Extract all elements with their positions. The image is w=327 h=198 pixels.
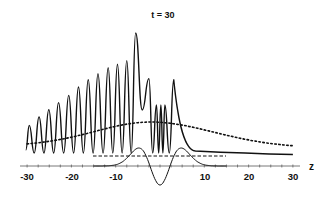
x-tick-label: 30	[288, 171, 299, 182]
chart-title: t = 30	[151, 10, 174, 20]
x-tick-label: -30	[20, 171, 34, 182]
x-tick-label: 20	[244, 171, 255, 182]
x-tick-label: -10	[109, 171, 123, 182]
x-tick-label: -20	[65, 171, 79, 182]
oscillating-wave-curve	[26, 33, 293, 155]
x-axis-label: z	[309, 161, 314, 172]
x-tick-label: 10	[200, 171, 211, 182]
x-tick-labels: -30 -20 -10 10 20 30	[20, 171, 298, 182]
chart: t = 30 -30 -20 -10 10 20 30 z	[0, 0, 327, 198]
